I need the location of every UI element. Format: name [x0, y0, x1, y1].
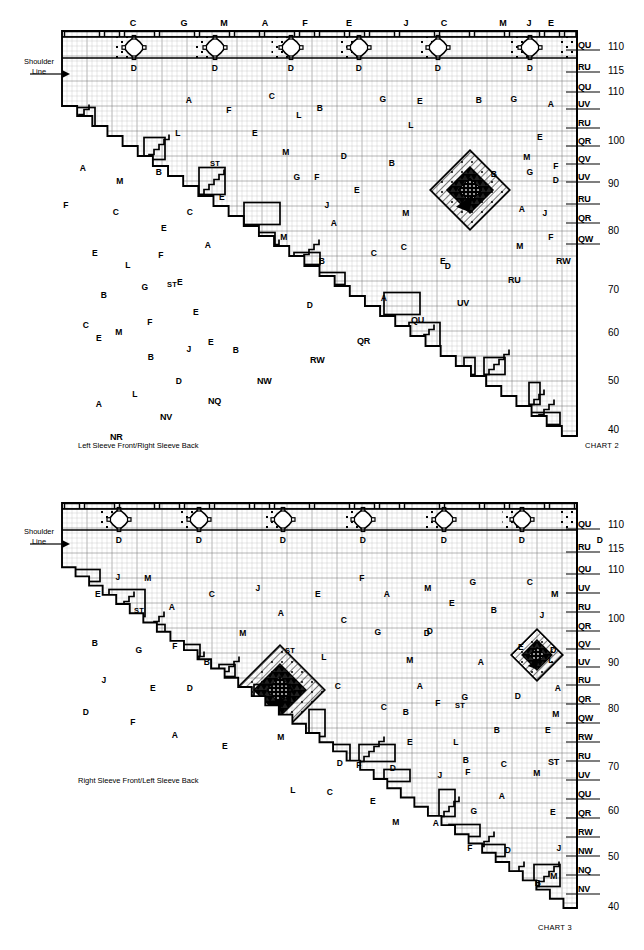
- edge-label: M: [550, 871, 557, 881]
- motif-letter: F: [172, 641, 177, 651]
- motif-letter: J: [438, 770, 443, 780]
- row-number: 110: [608, 86, 624, 97]
- diamond-motif-letter: D: [116, 535, 122, 545]
- chart-3: AGBEGBLCFA DDDDDDDEJMSTACJAECFAMEGCBGFBM…: [0, 480, 644, 950]
- row-label: QU: [578, 789, 591, 799]
- motif-letter: B: [204, 657, 210, 667]
- row-label: RU: [578, 62, 591, 72]
- motif-letter: B: [491, 605, 497, 615]
- motif-letter: E: [449, 598, 455, 608]
- motif-letter: A: [169, 602, 175, 612]
- motif-letter: C: [209, 589, 215, 599]
- motif-letter: L: [296, 110, 301, 120]
- motif-letter: L: [548, 655, 553, 665]
- motif-letter: E: [161, 223, 167, 233]
- motif-letter: E: [315, 589, 321, 599]
- motif-letter: M: [424, 583, 431, 593]
- motif-letter: D: [390, 763, 396, 773]
- row-number: 70: [608, 284, 619, 295]
- row-number: 110: [608, 564, 624, 575]
- motif-letter: A: [548, 99, 554, 109]
- row-number: 115: [608, 65, 624, 76]
- motif-letter: A: [381, 293, 387, 303]
- shoulder-arrow-icon: [30, 69, 70, 79]
- motif-letter: ST: [210, 159, 220, 168]
- motif-letter: C: [381, 702, 387, 712]
- motif-letter: B: [319, 256, 325, 266]
- row-label: NQ: [578, 865, 591, 875]
- motif-letter: E: [537, 132, 543, 142]
- motif-letter: C: [83, 320, 89, 330]
- diamond-motif-letter: D: [280, 535, 286, 545]
- shoulder-arrow-icon: [30, 539, 70, 549]
- motif-letter: M: [280, 232, 287, 242]
- motif-letter: G: [511, 94, 518, 104]
- motif-letter: B: [535, 878, 541, 888]
- motif-letter: M: [523, 152, 530, 162]
- diamond-motif-letter: D: [519, 535, 525, 545]
- row-label: UV: [578, 657, 590, 667]
- motif-letter: M: [402, 208, 409, 218]
- row-label: RU: [578, 751, 591, 761]
- motif-letter: B: [494, 725, 500, 735]
- motif-letter: F: [359, 573, 364, 583]
- row-number: 110: [608, 41, 624, 52]
- chart-2-caption: Left Sleeve Front/Right Sleeve Back: [78, 441, 198, 450]
- motif-letter: C: [187, 207, 193, 217]
- motif-letter: F: [548, 232, 553, 242]
- motif-letter: B: [389, 158, 395, 168]
- edge-label: NQ: [208, 396, 221, 406]
- motif-letter: A: [499, 791, 505, 801]
- motif-letter: M: [239, 628, 246, 638]
- motif-letter: F: [226, 105, 231, 115]
- motif-letter: E: [545, 725, 551, 735]
- motif-letter: F: [314, 172, 319, 182]
- motif-letter: G: [380, 94, 387, 104]
- motif-letter: B: [92, 638, 98, 648]
- row-number: 80: [608, 703, 619, 714]
- diamond-motif-letter: D: [212, 63, 218, 73]
- motif-letter: C: [113, 207, 119, 217]
- edge-label: RW: [556, 256, 570, 266]
- row-label: UV: [578, 172, 590, 182]
- motif-letter: D: [337, 758, 343, 768]
- row-label: QV: [578, 639, 591, 649]
- edge-label: RW: [310, 355, 324, 365]
- row-number: 40: [608, 424, 619, 435]
- chart-3-grid: [0, 480, 644, 950]
- edge-label: QU: [411, 315, 424, 325]
- motif-letter: B: [476, 95, 482, 105]
- row-label: QR: [578, 808, 591, 818]
- motif-letter: G: [471, 806, 478, 816]
- motif-letter: B: [233, 345, 239, 355]
- row-label: QU: [578, 519, 591, 529]
- motif-letter: J: [187, 344, 192, 354]
- motif-letter: D: [505, 845, 511, 855]
- row-number: 50: [608, 851, 619, 862]
- motif-letter: A: [278, 608, 284, 618]
- diamond-motif-letter: D: [356, 63, 362, 73]
- edge-label: UV: [457, 298, 469, 308]
- diamond-motif-letter: D: [527, 63, 533, 73]
- motif-letter: A: [417, 681, 423, 691]
- motif-letter: J: [557, 843, 562, 853]
- motif-letter: D: [187, 683, 193, 693]
- row-label: RU: [578, 602, 591, 612]
- motif-letter: L: [408, 120, 413, 130]
- row-label: UV: [578, 583, 590, 593]
- row-label: QR: [578, 621, 591, 631]
- row-label: RW: [578, 827, 592, 837]
- row-label: QV: [578, 154, 591, 164]
- diamond-motif-letter: D: [597, 535, 603, 545]
- motif-letter: C: [401, 242, 407, 252]
- row-label: NV: [578, 884, 590, 894]
- motif-letter: ST: [285, 646, 295, 655]
- row-label: RU: [578, 194, 591, 204]
- motif-letter: G: [294, 172, 301, 182]
- motif-letter: L: [453, 737, 458, 747]
- motif-letter: M: [533, 768, 540, 778]
- row-number: 60: [608, 805, 619, 816]
- motif-letter: E: [96, 333, 102, 343]
- motif-letter: L: [321, 652, 326, 662]
- diamond-motif-letter: D: [131, 63, 137, 73]
